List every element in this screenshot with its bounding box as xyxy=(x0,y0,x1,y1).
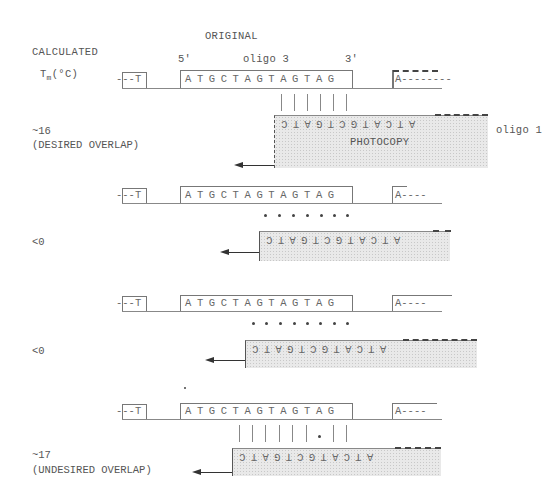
right-flank-seq: A---- xyxy=(395,189,427,201)
pair-bar xyxy=(239,425,240,442)
weak-pair-dot xyxy=(333,322,336,325)
weak-pair-dot xyxy=(333,214,336,217)
left-flank-seq: ---T xyxy=(116,405,141,417)
extension-arrow-icon xyxy=(242,165,274,166)
pair-bar xyxy=(306,425,307,442)
pair-bar xyxy=(333,425,334,442)
oligo-1-label: oligo 1 xyxy=(496,124,542,136)
left-flank-seq: ---T xyxy=(116,297,141,309)
weak-pair-dot xyxy=(346,322,349,325)
template-strand xyxy=(122,419,442,420)
overlap-note: (DESIRED OVERLAP) xyxy=(32,139,139,151)
pair-bar xyxy=(333,94,334,111)
weak-pair-dot xyxy=(319,322,322,325)
photocopy-label: PHOTOCOPY xyxy=(350,136,409,148)
weak-pair-dot xyxy=(320,214,323,217)
rotated-sequence: ATCATGCTGATC xyxy=(261,234,400,246)
photocopy-sequence: ATCATGCTGATC xyxy=(247,343,386,355)
weak-pair-dot xyxy=(278,214,281,217)
stray-mark xyxy=(184,387,186,389)
pair-bar xyxy=(252,425,253,442)
tm-value: ~16 xyxy=(32,125,51,137)
pair-bar xyxy=(294,94,295,111)
weak-pair-dot xyxy=(265,322,268,325)
weak-pair-dot xyxy=(264,214,267,217)
left-flank-seq: ---T xyxy=(116,73,141,85)
rotated-sequence: ATCATGCTGATC xyxy=(276,118,415,130)
pair-bar xyxy=(265,425,266,442)
tm-value: <0 xyxy=(32,236,45,248)
weak-pair-dot xyxy=(293,322,296,325)
tm-value: <0 xyxy=(32,345,45,357)
three-prime-label: 3' xyxy=(345,53,358,65)
core-sequence: ATGCTAGTAGTAG xyxy=(185,189,340,201)
photocopy-dash-top xyxy=(435,114,488,116)
extension-arrow-icon xyxy=(200,472,232,473)
photocopy-sequence: ATCATGCTGATC xyxy=(261,234,400,246)
weak-pair-dot xyxy=(279,322,282,325)
right-flank-seq: A-------- xyxy=(395,73,452,85)
calculated-label: CALCULATED xyxy=(32,46,98,58)
right-flank-seq: A---- xyxy=(395,405,427,417)
pair-bar xyxy=(346,94,347,111)
photocopy-sequence: ATCATGCTGATC xyxy=(276,118,415,130)
core-sequence: ATGCTAGTAGTAG xyxy=(185,297,340,309)
weak-pair-dot xyxy=(306,214,309,217)
rotated-sequence: ATCATGCTGATC xyxy=(247,343,386,355)
rotated-sequence: ATCATGCTGATC xyxy=(234,451,373,463)
core-sequence: ATGCTAGTAGTAG xyxy=(185,405,340,417)
pair-bar xyxy=(281,94,282,111)
extension-arrow-icon xyxy=(228,252,259,253)
photocopy-dash-top xyxy=(395,447,441,449)
weak-pair-dot xyxy=(252,322,255,325)
pair-bar xyxy=(292,425,293,442)
five-prime-label: 5' xyxy=(178,53,191,65)
pair-bar xyxy=(320,94,321,111)
left-flank-seq: ---T xyxy=(116,189,141,201)
weak-pair-dot xyxy=(292,214,295,217)
template-strand xyxy=(122,311,442,312)
diagram-title: ORIGINAL xyxy=(205,30,258,42)
extension-arrow-icon xyxy=(213,360,245,361)
photocopy-dash-top xyxy=(433,230,451,232)
template-strand xyxy=(122,88,442,89)
tm-value: ~17 xyxy=(32,449,51,461)
right-flank-dash-top xyxy=(393,70,438,72)
mismatch-dot xyxy=(318,435,321,438)
oligo-3-label: oligo 3 xyxy=(243,53,289,65)
tm-unit: (°C) xyxy=(52,68,78,80)
photocopy-sequence: ATCATGCTGATC xyxy=(234,451,373,463)
tm-T: T xyxy=(40,68,47,80)
pair-bar xyxy=(279,425,280,442)
pair-bar xyxy=(346,425,347,442)
right-flank-seq: A---- xyxy=(395,297,427,309)
tm-label: Tm(°C) xyxy=(40,68,78,82)
core-sequence: ATGCTAGTAGTAG xyxy=(185,73,340,85)
weak-pair-dot xyxy=(346,214,349,217)
pair-bar xyxy=(307,94,308,111)
right-flank-edge xyxy=(392,70,394,88)
template-strand xyxy=(122,203,442,204)
weak-pair-dot xyxy=(306,322,309,325)
overlap-note: (UNDESIRED OVERLAP) xyxy=(32,464,152,476)
photocopy-dash-top xyxy=(403,339,477,341)
